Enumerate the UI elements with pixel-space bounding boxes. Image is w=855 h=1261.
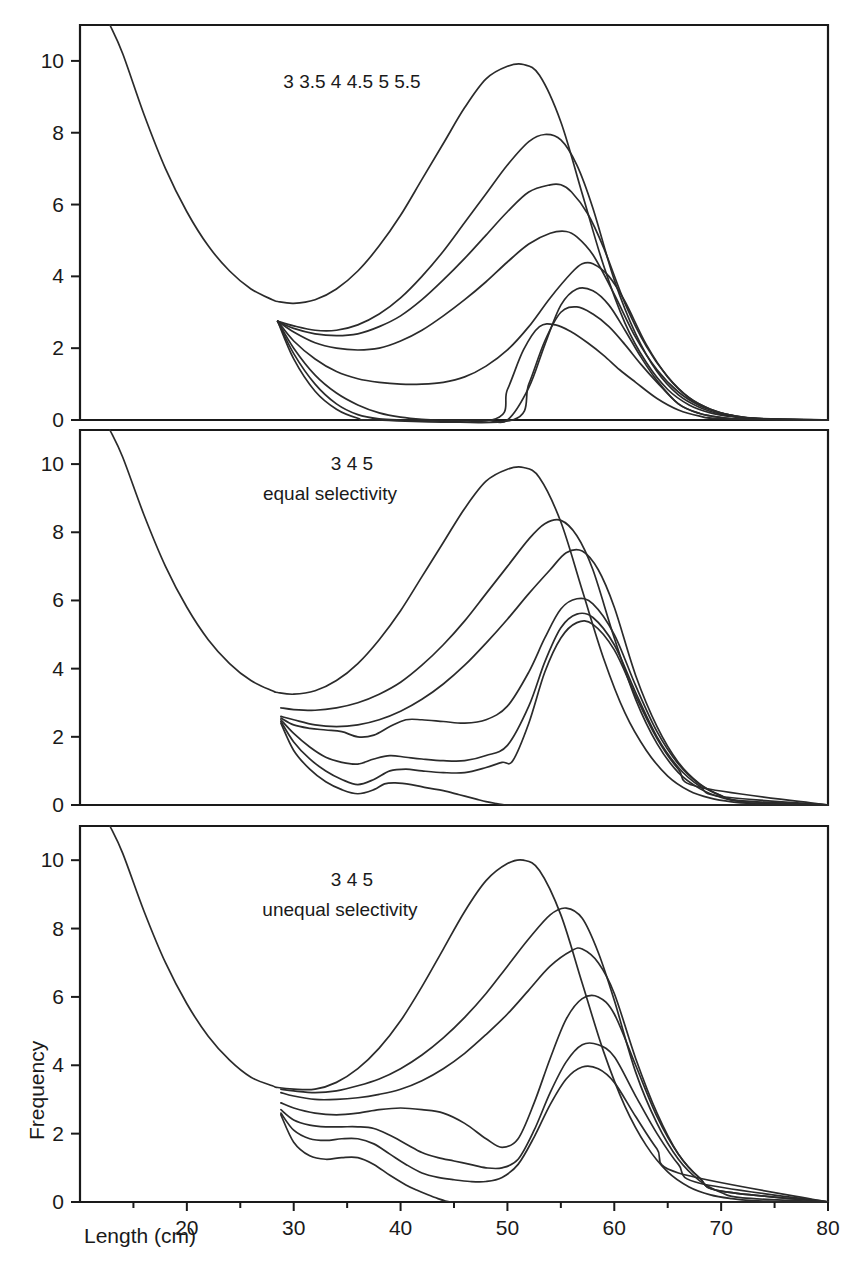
y-tick-label: 6	[52, 193, 64, 216]
figure-container: 0246810 3 3.5 4 4.5 5 5.5 0246810 3 4 5 …	[0, 0, 855, 1261]
multi-panel-line-chart: 0246810 3 3.5 4 4.5 5 5.5 0246810 3 4 5 …	[0, 0, 855, 1261]
y-tick-label: 8	[52, 121, 64, 144]
x-tick-label: 70	[709, 1216, 732, 1239]
y-tick-label: 10	[41, 452, 64, 475]
y-tick-label: 0	[52, 1190, 64, 1213]
x-tick-label: 50	[496, 1216, 519, 1239]
y-tick-label: 6	[52, 588, 64, 611]
y-tick-label: 8	[52, 917, 64, 940]
panel-bottom-series-labels: 3 4 5	[331, 869, 373, 890]
x-tick-label: 40	[389, 1216, 412, 1239]
panel-middle-caption: equal selectivity	[263, 483, 398, 504]
x-tick-label: 30	[282, 1216, 305, 1239]
y-tick-label: 0	[52, 408, 64, 431]
y-tick-label: 10	[41, 49, 64, 72]
panel-bottom-caption: unequal selectivity	[262, 899, 418, 920]
figure-background	[0, 0, 855, 1261]
y-tick-label: 4	[52, 1053, 64, 1076]
y-tick-label: 6	[52, 985, 64, 1008]
x-axis-title: Length (cm)	[84, 1224, 196, 1247]
y-tick-label: 0	[52, 793, 64, 816]
y-tick-label: 8	[52, 520, 64, 543]
y-tick-label: 4	[52, 264, 64, 287]
panel-top-series-labels: 3 3.5 4 4.5 5 5.5	[283, 71, 420, 92]
y-tick-label: 10	[41, 848, 64, 871]
x-tick-label: 60	[603, 1216, 626, 1239]
x-tick-label: 80	[816, 1216, 839, 1239]
y-tick-label: 2	[52, 725, 64, 748]
y-axis-title: Frequency	[25, 1040, 48, 1140]
y-tick-label: 4	[52, 657, 64, 680]
y-tick-label: 2	[52, 1122, 64, 1145]
y-tick-label: 2	[52, 336, 64, 359]
panel-middle-series-labels: 3 4 5	[331, 453, 373, 474]
